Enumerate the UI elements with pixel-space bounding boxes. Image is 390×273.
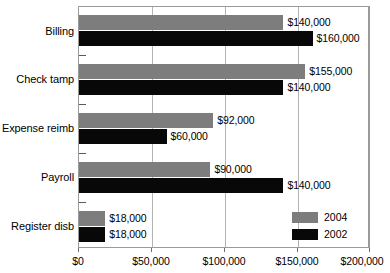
xtick-mark-0 [78,248,79,252]
bar-expense-reimb-2002 [79,129,167,144]
ycat-label-check-tamp: Check tamp [0,73,74,85]
bar-group-check-tamp: $155,000 $140,000 [79,62,368,102]
xtick-label-100000: $100,000 [203,255,246,267]
bar-value-check-tamp-2004: $155,000 [309,64,352,79]
legend-item-2002: 2002 [292,227,358,241]
legend-swatch-2004 [292,212,318,223]
category-tick-3 [79,153,86,154]
bar-value-billing-2002: $160,000 [317,31,360,46]
xtick-label-0: $0 [72,255,83,267]
bar-value-check-tamp-2002: $140,000 [287,80,330,95]
xtick-mark-100000 [224,248,225,252]
bar-chart: $140,000 $160,000 $155,000 $140,000 $92,… [0,0,390,273]
bar-register-disb-2004 [79,211,105,226]
ycat-label-billing: Billing [0,25,74,37]
plot-area: $140,000 $160,000 $155,000 $140,000 $92,… [78,6,370,248]
bar-group-payroll: $90,000 $140,000 [79,160,368,200]
xtick-mark-50000 [151,248,152,252]
legend-label-2004: 2004 [324,212,347,223]
bar-group-billing: $140,000 $160,000 [79,13,368,53]
bar-value-expense-reimb-2004: $92,000 [217,113,254,128]
xtick-label-200000: $200,000 [341,255,384,267]
bar-register-disb-2002 [79,227,105,242]
legend-item-2004: 2004 [292,210,358,224]
bar-payroll-2002 [79,178,283,193]
ycat-label-expense-reimb: Expense reimb [0,122,74,134]
bar-billing-2002 [79,31,313,46]
xtick-label-150000: $150,000 [276,255,319,267]
bar-value-payroll-2004: $90,000 [214,162,251,177]
bar-billing-2004 [79,15,283,30]
category-tick-1 [79,55,86,56]
xtick-mark-150000 [297,248,298,252]
bar-group-expense-reimb: $92,000 $60,000 [79,111,368,151]
bar-value-expense-reimb-2002: $60,000 [171,129,208,144]
xtick-label-50000: $50,000 [132,255,169,267]
legend: 2004 2002 [292,210,358,244]
bar-expense-reimb-2004 [79,113,213,128]
legend-swatch-2002 [292,229,318,240]
bar-value-billing-2004: $140,000 [287,15,330,30]
bar-value-register-disb-2002: $18,000 [109,227,146,242]
legend-label-2002: 2002 [324,229,347,240]
bar-value-register-disb-2004: $18,000 [109,211,146,226]
ycat-label-payroll: Payroll [0,171,74,183]
xtick-mark-200000 [369,248,370,252]
bar-value-payroll-2002: $140,000 [287,178,330,193]
category-tick-2 [79,104,86,105]
bar-check-tamp-2004 [79,64,305,79]
bar-check-tamp-2002 [79,80,283,95]
category-tick-4 [79,202,86,203]
bar-payroll-2004 [79,162,210,177]
ycat-label-register-disb: Register disb [0,220,74,232]
